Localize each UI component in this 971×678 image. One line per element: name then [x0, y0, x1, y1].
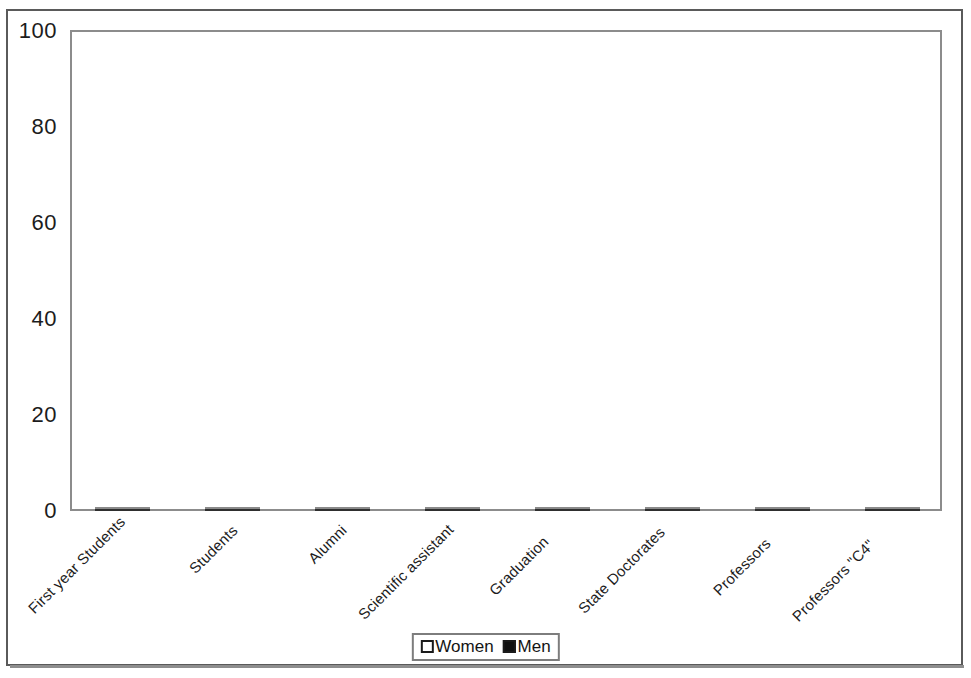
x-axis-label-first-year-students: First year Students — [25, 514, 127, 616]
bar-segment-women — [205, 507, 260, 509]
x-axis-label-alumni: Alumni — [305, 522, 349, 566]
x-axis-label-professors-c4: Professors "C4" — [789, 537, 876, 624]
bar-segment-men — [95, 509, 150, 511]
bar-segment-men — [865, 509, 920, 511]
bar-segment-women — [755, 507, 810, 509]
legend-swatch-men-icon — [503, 640, 516, 653]
legend-label-women: Women — [435, 638, 493, 655]
bar-segment-men — [425, 509, 480, 511]
y-axis-tick-80: 80 — [11, 116, 57, 138]
bar-segment-women — [645, 507, 700, 509]
x-axis-label-professors: Professors — [710, 535, 773, 598]
y-axis-tick-0: 0 — [11, 500, 57, 522]
bar-segment-men — [755, 509, 810, 511]
legend-swatch-women-icon — [420, 640, 433, 653]
bar-segment-women — [425, 507, 480, 509]
bar-segment-men — [205, 509, 260, 511]
bar-segment-women — [315, 507, 370, 509]
bar-segment-men — [315, 509, 370, 511]
legend-item-women: Women — [420, 638, 493, 655]
stacked-bar-chart: 100 80 60 40 20 0 — [0, 0, 971, 678]
bar-segment-women — [95, 507, 150, 509]
bar-segment-men — [535, 509, 590, 511]
x-axis-label-scientific-assistant: Scientific assistant — [355, 521, 456, 622]
plot-area — [70, 30, 942, 511]
y-axis-tick-40: 40 — [11, 308, 57, 330]
legend-item-men: Men — [503, 638, 551, 655]
x-axis-label-state-doctorates: State Doctorates — [575, 524, 667, 616]
bar-segment-women — [535, 507, 590, 509]
bar-segment-women — [865, 507, 920, 509]
x-axis-label-students: Students — [186, 522, 240, 576]
y-axis-tick-60: 60 — [11, 212, 57, 234]
y-axis-tick-100: 100 — [11, 20, 57, 42]
legend-label-men: Men — [518, 638, 551, 655]
y-axis-tick-20: 20 — [11, 404, 57, 426]
bar-segment-men — [645, 509, 700, 511]
chart-legend: Women Men — [411, 633, 559, 661]
x-axis-label-graduation: Graduation — [486, 533, 551, 598]
